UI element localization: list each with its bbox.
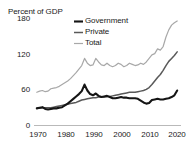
legend-swatch-total	[74, 38, 83, 47]
legend-item-private: Private	[74, 26, 128, 37]
legend-item-total: Total	[74, 37, 128, 48]
x-axis-tick-1970: 1970	[23, 130, 53, 139]
chart-container: Percent of GDP 180 120 60 0 1970 1980 19…	[0, 0, 191, 146]
legend-label-total: Total	[85, 38, 101, 47]
y-axis-tick-0: 0	[4, 121, 30, 130]
legend-item-government: Government	[74, 15, 128, 26]
legend-swatch-private	[74, 27, 83, 36]
y-axis-tick-180: 180	[4, 14, 30, 23]
x-axis-tick-2000: 2000	[107, 130, 137, 139]
x-axis-tick-1980: 1980	[51, 130, 81, 139]
x-axis-tick-1990: 1990	[79, 130, 109, 139]
x-axis-tick-2020: 2020	[162, 130, 191, 139]
legend-label-private: Private	[85, 27, 109, 36]
x-axis-line	[34, 125, 181, 126]
legend-label-government: Government	[85, 16, 128, 25]
legend-swatch-government	[74, 16, 83, 25]
y-axis-tick-60: 60	[4, 85, 30, 94]
y-axis-tick-120: 120	[4, 50, 30, 59]
x-axis-tick-2010: 2010	[135, 130, 165, 139]
legend: Government Private Total	[74, 15, 128, 48]
